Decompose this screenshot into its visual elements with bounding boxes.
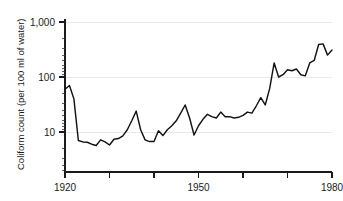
y-tick-label-10: 10 (44, 127, 56, 138)
y-axis-title: Coliform count (per 100 ml of water) (15, 18, 26, 170)
y-tick-label-100: 100 (38, 72, 55, 83)
y-tick-label-1000: 1,000 (30, 17, 55, 28)
x-tick-label-1920: 1920 (54, 182, 77, 193)
coliform-count-line-chart: 1,000 100 10 Coliform count (per 100 ml … (0, 0, 343, 201)
x-tick-label-1950: 1950 (187, 182, 210, 193)
chart-background (0, 0, 343, 201)
x-tick-label-1980: 1980 (321, 182, 343, 193)
